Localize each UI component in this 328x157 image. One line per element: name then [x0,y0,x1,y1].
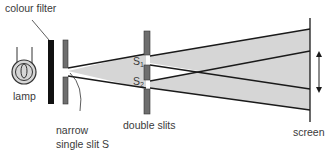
double-slits-label: double slits [123,119,176,131]
colour-filter [48,40,54,104]
narrow-slit-label-line1: narrow [56,124,88,136]
colour-filter-label: colour filter [5,2,56,14]
single-slit-pointer [70,73,81,111]
double-arrow-icon [316,51,322,93]
colour-filter-pointer [32,20,49,40]
s1-label: S1 [133,55,144,71]
screen-label: screen [293,126,325,138]
double-slit-diagram: colour filter lamp narrow single slit S … [0,0,328,157]
diagram-graphics [0,0,328,157]
s2-label: S2 [133,75,144,91]
double-slit-plate [144,31,150,114]
narrow-slit-label-line2: single slit S [56,138,109,150]
lamp-icon [12,47,36,84]
single-slit-plate [63,40,68,104]
lamp-label: lamp [13,90,36,102]
